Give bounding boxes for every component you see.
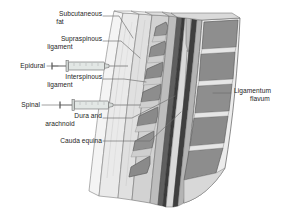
label-supraspinous-ligament-line1: Supraspinous bbox=[18, 35, 102, 43]
label-epidural: Epidural bbox=[2, 62, 45, 70]
label-supraspinous-ligament-line2: ligament bbox=[18, 43, 102, 51]
label-dura-and-arachnoid-line1: Dura and bbox=[18, 112, 102, 120]
label-dura-and-arachnoid-line2: arachnoid bbox=[18, 120, 102, 128]
label-ligamentum-flavum-line1: Ligamentum bbox=[234, 87, 286, 95]
figure-root: Subcutaneous fat Supraspinous ligament E… bbox=[0, 0, 287, 208]
label-interspinous-ligament-line1: Interspinous bbox=[18, 73, 102, 81]
label-ligamentum-flavum: Ligamentum flavum bbox=[234, 87, 286, 103]
label-dura-and-arachnoid: Dura and arachnoid bbox=[18, 112, 102, 128]
anatomy-illustration bbox=[0, 0, 287, 208]
label-interspinous-ligament-line2: ligament bbox=[18, 81, 102, 89]
label-interspinous-ligament: Interspinous ligament bbox=[18, 73, 102, 89]
label-supraspinous-ligament: Supraspinous ligament bbox=[18, 35, 102, 51]
label-cauda-equina: Cauda equina bbox=[18, 137, 102, 145]
label-spinal: Spinal bbox=[2, 101, 40, 109]
label-ligamentum-flavum-line2: flavum bbox=[234, 95, 286, 103]
label-subcutaneous-fat: Subcutaneous fat bbox=[18, 10, 102, 26]
label-subcutaneous-fat-line2: fat bbox=[18, 18, 102, 26]
label-subcutaneous-fat-line1: Subcutaneous bbox=[18, 10, 102, 18]
